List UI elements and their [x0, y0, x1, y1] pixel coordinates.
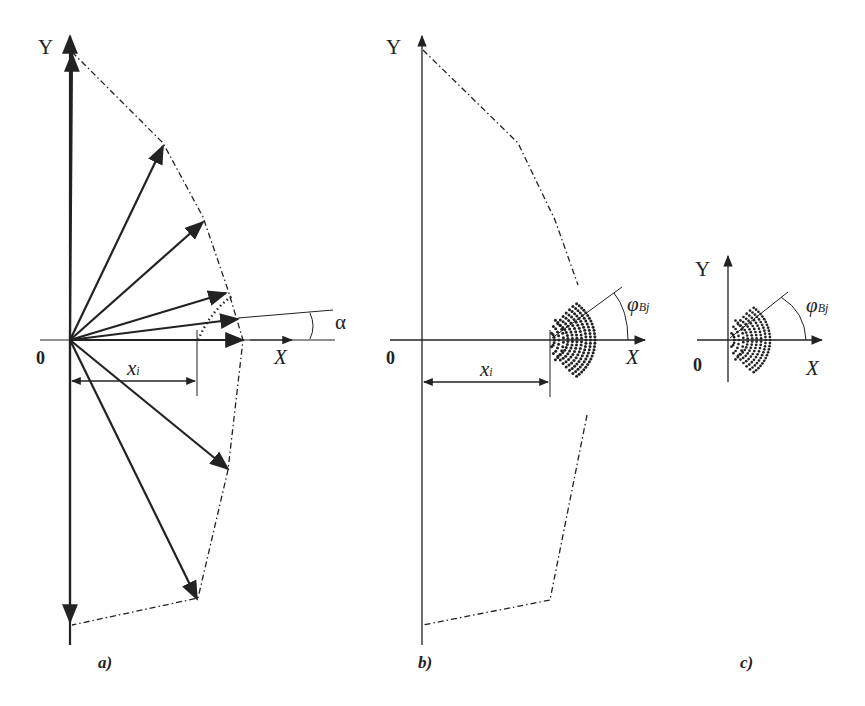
phi-label-subscript: Bj	[818, 301, 829, 315]
dotted-arc	[198, 296, 232, 340]
alpha-label: α	[335, 310, 346, 335]
angle-arc	[614, 293, 628, 340]
x-axis-label: X	[626, 345, 639, 370]
diagram-canvas	[0, 0, 865, 706]
xi-label-main: x	[480, 357, 489, 381]
angle-reference-line	[238, 310, 333, 318]
envelope-polygon	[72, 52, 243, 625]
caption-c: c)	[740, 653, 753, 673]
origin-label: 0	[693, 355, 702, 376]
phi-label: φBj	[627, 292, 649, 317]
phi-label: φBj	[806, 293, 828, 318]
phi-label-subscript: Bj	[639, 300, 650, 314]
xi-label-subscript: i	[489, 365, 492, 379]
y-axis-label: Y	[695, 257, 710, 282]
x-axis-label: X	[274, 345, 287, 370]
angle-arc	[781, 297, 806, 340]
panel-b	[390, 36, 645, 645]
angle-arc	[310, 313, 313, 339]
envelope-polygon-lower	[423, 415, 587, 625]
envelope-polygon	[423, 50, 578, 285]
phi-label-main: φ	[627, 292, 639, 316]
xi-label-main: x	[127, 356, 136, 380]
phi-label-main: φ	[806, 293, 818, 317]
caption-a: a)	[98, 653, 112, 673]
origin-label: 0	[36, 348, 45, 369]
xi-label: xi	[480, 357, 493, 382]
x-axis-label: X	[806, 356, 819, 381]
xi-label-subscript: i	[136, 364, 139, 378]
caption-b: b)	[418, 653, 432, 673]
origin-label: 0	[386, 348, 395, 369]
force-vectors	[70, 54, 243, 622]
y-axis-label: Y	[38, 35, 53, 60]
panel-a	[40, 36, 335, 645]
y-axis-label: Y	[386, 35, 401, 60]
xi-label: xi	[127, 356, 140, 381]
